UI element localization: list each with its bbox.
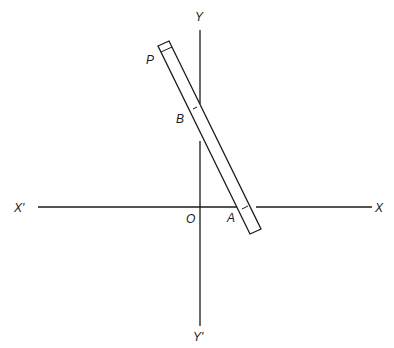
label-y-prime: Y' — [193, 330, 204, 344]
rod — [158, 41, 261, 234]
label-x-prime: X' — [13, 201, 25, 215]
label-p: P — [146, 53, 154, 67]
label-y: Y — [195, 10, 204, 24]
label-b: B — [176, 112, 184, 126]
label-origin: O — [186, 212, 195, 226]
axes-and-rod-svg: Y Y' X X' O P B A — [0, 0, 394, 348]
diagram-figure: Y Y' X X' O P B A — [0, 0, 394, 348]
label-x: X — [374, 201, 384, 215]
label-a: A — [226, 211, 235, 225]
